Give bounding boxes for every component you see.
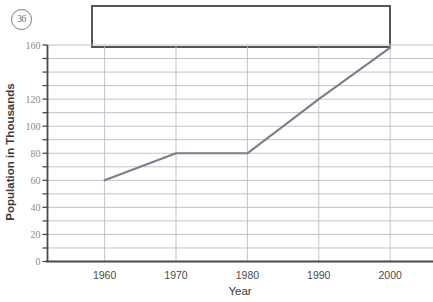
y-tick-label: 0 [36, 256, 41, 267]
y-axis-title: Population in Thousands [4, 83, 16, 220]
y-tick-label: 100 [26, 121, 41, 132]
x-axis-tick-labels: 19601970198019902000 [93, 269, 402, 281]
x-axis-title: Year [228, 285, 251, 297]
line-chart: 160120100806040200 19601970198019902000 … [0, 0, 433, 302]
x-tick-label: 1980 [236, 269, 260, 281]
x-tick-label: 2000 [378, 269, 402, 281]
y-tick-label: 20 [31, 229, 41, 240]
x-tick-label: 1970 [164, 269, 188, 281]
y-tick-label: 120 [26, 94, 41, 105]
y-tick-label: 60 [31, 175, 41, 186]
x-tick-label: 1990 [307, 269, 331, 281]
y-axis-tick-labels: 160120100806040200 [26, 40, 41, 268]
y-tick-label: 160 [26, 40, 41, 51]
x-tick-label: 1960 [93, 269, 117, 281]
y-tick-label: 80 [31, 148, 41, 159]
y-tick-label: 40 [31, 202, 41, 213]
chart-svg: 160120100806040200 19601970198019902000 … [0, 0, 433, 302]
